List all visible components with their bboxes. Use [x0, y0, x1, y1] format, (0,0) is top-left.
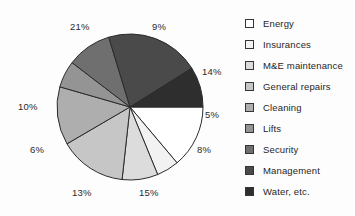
legend-item-label: M&E maintenance — [263, 61, 343, 71]
legend-swatch-icon — [245, 82, 254, 91]
legend-item-label: Management — [263, 166, 320, 176]
pie-value-label: 6% — [30, 145, 44, 155]
pie-value-label: 8% — [197, 145, 211, 155]
pie-slice-group — [57, 34, 203, 180]
legend-item-label: General repairs — [263, 82, 331, 92]
legend-swatch-icon — [245, 103, 254, 112]
legend-item-security[interactable]: Security — [245, 139, 355, 160]
legend-item-management[interactable]: Management — [245, 160, 355, 181]
legend-item-insurances[interactable]: Insurances — [245, 34, 355, 55]
pie-value-label: 14% — [202, 67, 222, 77]
legend-item-label: Water, etc. — [263, 187, 310, 197]
chart-legend: EnergyInsurancesM&E maintenanceGeneral r… — [245, 13, 355, 202]
legend-item-label: Lifts — [263, 124, 281, 134]
legend-swatch-icon — [245, 19, 254, 28]
legend-item-m-e-maintenance[interactable]: M&E maintenance — [245, 55, 355, 76]
legend-swatch-icon — [245, 61, 254, 70]
legend-item-general-repairs[interactable]: General repairs — [245, 76, 355, 97]
pie-value-label: 10% — [18, 102, 38, 112]
legend-item-label: Insurances — [263, 40, 311, 50]
legend-swatch-icon — [245, 40, 254, 49]
legend-swatch-icon — [245, 166, 254, 175]
pie-chart-figure: 14%5%8%15%13%6%10%21%9% EnergyInsurances… — [0, 0, 355, 216]
pie-value-label: 13% — [72, 188, 92, 198]
legend-swatch-icon — [245, 145, 254, 154]
pie-value-label: 9% — [152, 22, 166, 32]
legend-item-water-etc[interactable]: Water, etc. — [245, 181, 355, 202]
legend-item-lifts[interactable]: Lifts — [245, 118, 355, 139]
legend-swatch-icon — [245, 187, 254, 196]
legend-item-label: Cleaning — [263, 103, 302, 113]
legend-item-label: Security — [263, 145, 299, 155]
pie-value-label: 15% — [139, 188, 159, 198]
legend-item-label: Energy — [263, 19, 294, 29]
pie-value-label: 5% — [205, 110, 219, 120]
pie-plot-area: 14%5%8%15%13%6%10%21%9% — [0, 0, 232, 216]
legend-swatch-icon — [245, 124, 254, 133]
legend-item-energy[interactable]: Energy — [245, 13, 355, 34]
pie-value-label: 21% — [70, 22, 90, 32]
legend-item-cleaning[interactable]: Cleaning — [245, 97, 355, 118]
